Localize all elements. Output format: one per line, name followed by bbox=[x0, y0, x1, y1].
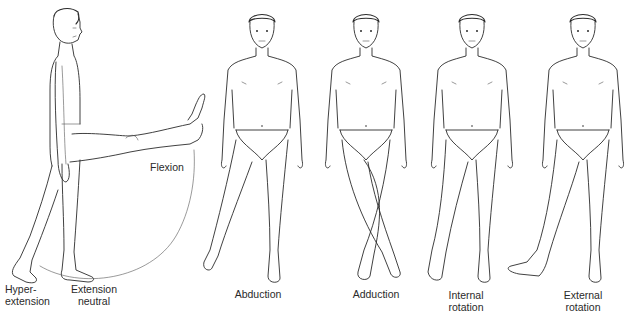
adduction-figure bbox=[325, 15, 406, 280]
label-hyperextension-line2: extension bbox=[5, 295, 50, 307]
figures-illustration bbox=[0, 0, 630, 316]
side-view-figure bbox=[12, 9, 204, 283]
label-hyperextension: Hyper- extension bbox=[5, 283, 50, 307]
label-internal-line2: rotation bbox=[440, 301, 492, 313]
external-rotation-figure bbox=[508, 15, 623, 283]
label-external-line1: External bbox=[555, 289, 611, 301]
abduction-figure bbox=[204, 15, 303, 283]
label-adduction: Adduction bbox=[344, 288, 408, 300]
label-abduction: Abduction bbox=[226, 288, 290, 300]
label-extension-line1: Extension bbox=[68, 283, 120, 295]
label-flexion: Flexion bbox=[150, 161, 184, 173]
label-extension-line2: neutral bbox=[68, 295, 120, 307]
label-hyperextension-line1: Hyper- bbox=[5, 283, 50, 295]
label-extension-neutral: Extension neutral bbox=[68, 283, 120, 307]
internal-rotation-figure bbox=[428, 15, 513, 283]
label-internal-rotation: Internal rotation bbox=[440, 289, 492, 313]
label-internal-line1: Internal bbox=[440, 289, 492, 301]
hip-motion-diagram: Hyper- extension Extension neutral Flexi… bbox=[0, 0, 630, 316]
label-external-line2: rotation bbox=[555, 301, 611, 313]
label-external-rotation: External rotation bbox=[555, 289, 611, 313]
